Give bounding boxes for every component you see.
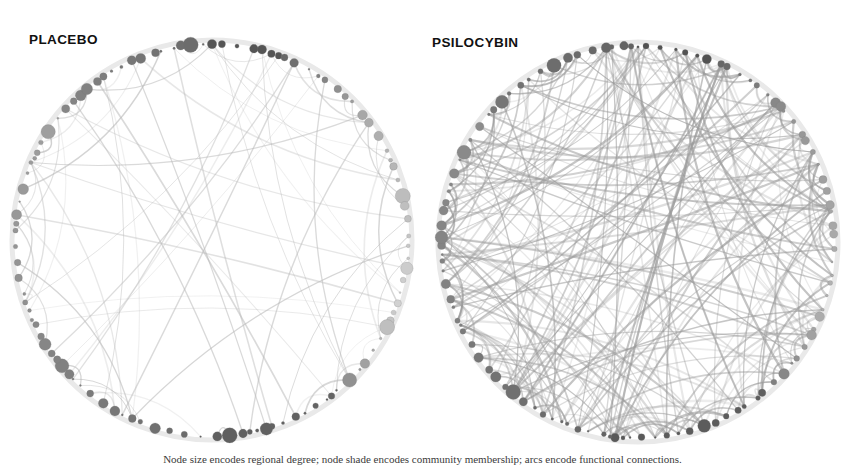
network-node: [574, 51, 581, 58]
network-node: [235, 44, 239, 48]
network-node: [13, 244, 17, 248]
network-node: [400, 277, 406, 283]
network-node: [754, 83, 760, 89]
network-node: [394, 300, 401, 307]
network-node: [674, 48, 677, 51]
network-node: [823, 187, 830, 194]
network-node: [449, 169, 459, 179]
network-node: [538, 69, 543, 74]
network-node: [507, 91, 511, 95]
network-node: [316, 74, 320, 78]
network-node: [39, 140, 44, 145]
network-node: [587, 430, 589, 432]
network-edge: [31, 115, 363, 165]
network-node: [686, 428, 693, 435]
network-node: [459, 324, 462, 327]
network-node: [490, 106, 497, 113]
network-node: [12, 210, 22, 220]
network-node: [379, 337, 382, 340]
network-node: [502, 384, 508, 390]
network-node: [395, 188, 410, 203]
network-node: [518, 82, 524, 88]
network-node: [491, 371, 502, 382]
network-node: [23, 300, 28, 305]
network-node: [173, 47, 175, 49]
network-node: [815, 312, 825, 322]
network-node: [183, 37, 198, 52]
network-node: [643, 43, 649, 49]
network-node: [359, 368, 361, 370]
network-node: [474, 353, 484, 363]
network-node: [152, 49, 160, 57]
network-node: [810, 149, 815, 154]
network-node: [404, 215, 411, 222]
network-node: [374, 131, 383, 140]
network-node: [28, 309, 32, 313]
network-node: [167, 428, 173, 434]
network-node: [547, 58, 561, 72]
network-node: [601, 432, 606, 437]
network-node: [437, 221, 447, 231]
network-node: [766, 93, 769, 96]
network-node: [328, 393, 335, 400]
network-node: [391, 310, 396, 315]
network-node: [495, 95, 508, 108]
network-node: [218, 41, 225, 48]
network-node: [830, 230, 838, 238]
network-node: [372, 349, 375, 352]
network-node: [441, 279, 451, 289]
network-node: [620, 41, 629, 50]
network-node: [756, 396, 761, 401]
network-node: [396, 178, 400, 182]
network-node: [792, 119, 796, 123]
network-edge: [98, 82, 296, 417]
network-node: [257, 45, 266, 54]
network-node: [563, 53, 572, 62]
network-edge: [513, 46, 646, 392]
network-node: [476, 122, 484, 130]
network-edge: [31, 58, 141, 162]
network-node: [390, 163, 398, 171]
network-node: [62, 105, 70, 113]
network-node: [829, 222, 837, 230]
network-node: [98, 398, 108, 408]
figure-canvas: PLACEBO PSILOCYBIN Node size encodes reg…: [0, 0, 845, 465]
network-node: [608, 435, 612, 439]
network-edge: [25, 56, 278, 303]
psilocybin-network-graph: [422, 0, 845, 465]
network-node: [779, 368, 790, 379]
network-node: [70, 98, 77, 105]
network-node: [457, 145, 471, 159]
network-node: [828, 280, 833, 285]
network-node: [19, 201, 21, 203]
placebo-network-graph: [0, 0, 422, 465]
network-node: [440, 258, 445, 263]
network-node: [442, 199, 449, 206]
network-node: [281, 421, 284, 424]
network-node: [33, 321, 39, 327]
network-node: [621, 436, 625, 440]
network-node: [658, 45, 663, 50]
network-node: [260, 423, 272, 435]
network-node: [460, 328, 466, 334]
network-node: [29, 160, 33, 164]
network-node: [771, 379, 777, 385]
network-node: [826, 294, 829, 297]
network-node: [334, 85, 342, 93]
caption-text: Node size encodes regional degree; node …: [163, 455, 682, 465]
network-node: [533, 406, 536, 409]
network-node: [34, 150, 40, 156]
network-node: [14, 259, 21, 266]
network-node: [202, 43, 204, 45]
network-node: [575, 426, 581, 432]
network-node: [290, 58, 299, 67]
network-edge: [23, 51, 161, 189]
network-node: [41, 125, 55, 139]
network-node: [698, 419, 711, 432]
network-node: [695, 54, 699, 58]
network-node: [742, 404, 747, 409]
network-edge: [31, 163, 407, 269]
network-node: [560, 420, 563, 423]
network-node: [247, 429, 252, 434]
network-node: [589, 46, 597, 54]
